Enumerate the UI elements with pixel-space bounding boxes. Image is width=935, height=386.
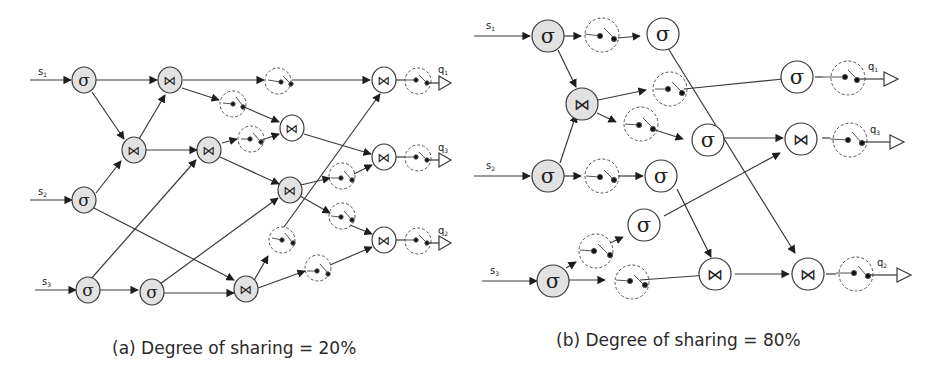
join-node-unshared: ⋈ <box>372 144 396 170</box>
panel-a-edges <box>30 80 405 293</box>
panel-a: σ σ σ σ ⋈ ⋈ <box>30 64 451 305</box>
output-triangle-icon <box>870 268 911 282</box>
query-plan-figure: σ σ σ σ ⋈ ⋈ <box>0 0 935 386</box>
select-node-s2: σ <box>72 187 96 213</box>
select-node-s3-2: σ <box>140 279 164 305</box>
svg-text:σ: σ <box>146 282 158 302</box>
switch-icon <box>305 255 331 281</box>
select-node-unshared: σ <box>692 124 724 156</box>
svg-text:σ: σ <box>541 24 555 48</box>
input-label-s3: s3 <box>42 276 51 288</box>
join-node-unshared: ⋈ <box>699 258 731 290</box>
switch-icon <box>265 68 293 94</box>
select-node-unshared: σ <box>781 61 813 93</box>
svg-text:σ: σ <box>546 269 560 293</box>
svg-text:⋈: ⋈ <box>574 95 590 114</box>
switch-icon <box>579 234 613 268</box>
svg-text:⋈: ⋈ <box>800 265 816 284</box>
output-label-q3: q3 <box>438 142 448 154</box>
svg-text:⋈: ⋈ <box>203 143 216 158</box>
switch-icon <box>269 227 295 253</box>
output-label-q1: q1 <box>868 61 878 73</box>
output-label-q3: q3 <box>870 124 880 136</box>
switch-icon <box>615 265 649 299</box>
panel-b-labels: s1 s2 s3 q1 q3 q2 <box>486 20 887 277</box>
svg-text:σ: σ <box>790 65 804 89</box>
switch-icon <box>220 91 246 117</box>
output-label-q2: q2 <box>438 225 448 237</box>
switch-icon <box>653 72 687 106</box>
svg-text:⋈: ⋈ <box>378 233 391 248</box>
switch-icon <box>823 61 865 95</box>
switch-icon <box>836 257 873 291</box>
join-node-unshared: ⋈ <box>792 258 824 290</box>
svg-text:⋈: ⋈ <box>284 183 297 198</box>
join-node-unshared: ⋈ <box>372 67 396 93</box>
caption-panel-a: (a) Degree of sharing = 20% <box>112 338 356 358</box>
select-node-unshared: σ <box>645 160 677 192</box>
join-node-shared: ⋈ <box>566 88 598 120</box>
svg-text:⋈: ⋈ <box>240 282 253 297</box>
svg-text:σ: σ <box>78 70 90 90</box>
output-triangle-icon <box>864 135 904 149</box>
join-node-unshared: ⋈ <box>785 123 817 155</box>
switch-icon <box>405 228 431 254</box>
select-node-s3: σ <box>537 265 569 297</box>
switch-icon <box>329 163 355 189</box>
svg-text:⋈: ⋈ <box>707 265 723 284</box>
select-node-s1: σ <box>72 67 96 93</box>
panel-b-nodes: σ σ σ ⋈ σ σ <box>532 18 911 299</box>
join-node-shared: ⋈ <box>122 137 146 163</box>
select-node-s1: σ <box>532 20 564 52</box>
input-label-s1: s1 <box>486 20 495 32</box>
switch-icon <box>405 145 431 171</box>
svg-text:σ: σ <box>82 280 94 300</box>
svg-text:σ: σ <box>656 22 670 46</box>
switch-icon <box>405 68 431 94</box>
output-triangle-icon <box>428 236 451 250</box>
switch-icon <box>585 159 619 193</box>
input-label-s2: s2 <box>486 160 495 172</box>
join-node-shared: ⋈ <box>197 137 221 163</box>
join-node-shared: ⋈ <box>278 177 302 203</box>
select-node-unshared: σ <box>628 209 660 241</box>
switch-icon <box>585 18 619 52</box>
select-node-s2: σ <box>532 160 564 192</box>
panel-a-nodes: σ σ σ σ ⋈ ⋈ <box>72 67 451 305</box>
select-node-unshared: σ <box>647 18 679 50</box>
switch-icon <box>830 123 867 157</box>
svg-text:⋈: ⋈ <box>164 73 177 88</box>
output-label-q2: q2 <box>877 257 887 269</box>
caption-panel-b: (b) Degree of sharing = 80% <box>556 330 801 350</box>
panel-a-labels: s1 s2 s3 q1 q3 q2 <box>38 64 448 288</box>
switch-icon <box>238 126 264 152</box>
input-label-s2: s2 <box>38 186 47 198</box>
switch-icon <box>329 203 355 229</box>
panel-b: σ σ σ ⋈ σ σ <box>474 18 911 299</box>
join-node-unshared: ⋈ <box>372 227 396 253</box>
join-node-unshared: ⋈ <box>280 115 304 141</box>
svg-text:⋈: ⋈ <box>378 150 391 165</box>
output-triangle-icon <box>428 76 451 90</box>
svg-text:σ: σ <box>701 128 715 152</box>
output-triangle-icon <box>428 153 451 167</box>
svg-text:⋈: ⋈ <box>793 130 809 149</box>
select-node-s3: σ <box>76 277 100 303</box>
svg-text:⋈: ⋈ <box>128 143 141 158</box>
join-node-shared: ⋈ <box>234 276 258 302</box>
input-label-s1: s1 <box>38 66 47 78</box>
svg-text:σ: σ <box>637 213 651 237</box>
svg-text:σ: σ <box>541 164 555 188</box>
join-node-shared: ⋈ <box>158 67 182 93</box>
svg-text:σ: σ <box>654 164 668 188</box>
output-label-q1: q1 <box>438 64 448 76</box>
svg-text:⋈: ⋈ <box>286 121 299 136</box>
svg-text:⋈: ⋈ <box>378 73 391 88</box>
switch-icon <box>624 107 658 141</box>
input-label-s3: s3 <box>490 265 499 277</box>
svg-text:σ: σ <box>78 190 90 210</box>
